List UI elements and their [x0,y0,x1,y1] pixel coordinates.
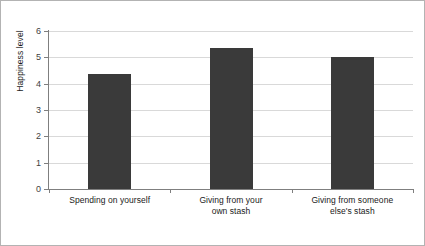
x-category-label: Giving from someoneelse's stash [292,195,413,217]
bar [210,48,253,189]
x-tick-mark [413,189,414,193]
x-category-label-line: Giving from someone [292,195,413,206]
y-tick-label: 0 [29,185,41,194]
y-tick-label: 1 [29,158,41,167]
y-tick-mark [44,189,48,190]
y-tick-mark [44,136,48,137]
y-tick-label: 4 [29,79,41,88]
x-category-label-line: Spending on yourself [49,195,170,206]
y-tick-mark [44,31,48,32]
plot-area [49,31,413,189]
x-tick-mark [49,189,50,193]
x-category-label-line: else's stash [292,206,413,217]
y-tick-mark [44,57,48,58]
x-category-label: Giving from yourown stash [170,195,291,217]
y-tick-label: 2 [29,132,41,141]
gridline [49,189,413,190]
y-tick-label: 5 [29,53,41,62]
y-tick-mark [44,110,48,111]
y-tick-mark [44,163,48,164]
bar [331,57,374,189]
x-category-label-line: Giving from your [170,195,291,206]
x-category-label-line: own stash [170,206,291,217]
y-tick-mark [44,84,48,85]
x-category-label: Spending on yourself [49,195,170,206]
bar [88,74,131,189]
y-tick-label: 3 [29,106,41,115]
gridline [49,31,413,32]
x-tick-mark [170,189,171,193]
x-tick-mark [292,189,293,193]
y-tick-label: 6 [29,27,41,36]
y-axis-title: Happiness level [15,1,25,121]
chart-figure: Happiness level 0123456 Spending on your… [0,0,425,246]
